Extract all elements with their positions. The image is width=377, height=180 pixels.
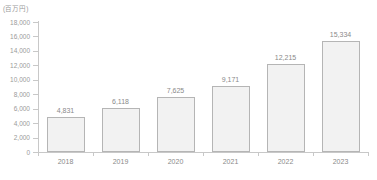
bar-value-label: 15,334 (322, 31, 360, 39)
bar (212, 86, 250, 152)
bar-group: 7,625 (157, 22, 195, 152)
bar-value-label: 6,118 (102, 98, 140, 106)
x-axis-tick (38, 152, 39, 156)
x-axis-label: 2021 (203, 158, 258, 166)
bar-chart: (百万円) 02,0004,0006,0008,00010,00012,0001… (0, 0, 377, 180)
plot-area: 4,8316,1187,6259,17112,21515,334 (38, 22, 368, 152)
y-axis-tick-label: 2,000 (14, 134, 30, 141)
bar-value-label: 7,625 (157, 87, 195, 95)
y-axis-tick-label: 14,000 (10, 47, 30, 54)
x-axis-label: 2019 (93, 158, 148, 166)
y-axis-tick-label: 12,000 (10, 62, 30, 69)
x-axis-label: 2023 (313, 158, 368, 166)
bar-value-label: 12,215 (267, 54, 305, 62)
x-axis-tick (368, 152, 369, 156)
y-axis-tick-label: 16,000 (10, 33, 30, 40)
bar-value-label: 9,171 (212, 76, 250, 84)
x-axis-label: 2022 (258, 158, 313, 166)
x-axis-tick (313, 152, 314, 156)
y-axis-tick-label: 0 (26, 149, 30, 156)
x-axis-label: 2020 (148, 158, 203, 166)
y-axis-tick-label: 18,000 (10, 19, 30, 26)
bar (102, 108, 140, 152)
bar (322, 41, 360, 152)
y-axis-tick-label: 8,000 (14, 91, 30, 98)
y-axis-tick-label: 6,000 (14, 105, 30, 112)
y-axis-tick-label: 4,000 (14, 120, 30, 127)
axis-unit-label: (百万円) (3, 4, 28, 13)
bar-group: 4,831 (47, 22, 85, 152)
bar-group: 9,171 (212, 22, 250, 152)
bar (267, 64, 305, 152)
bar-value-label: 4,831 (47, 107, 85, 115)
x-axis-tick (203, 152, 204, 156)
x-axis-tick (258, 152, 259, 156)
x-axis-tick (93, 152, 94, 156)
y-axis-tick-label: 10,000 (10, 76, 30, 83)
x-axis-tick (148, 152, 149, 156)
bar (157, 97, 195, 152)
bar-group: 6,118 (102, 22, 140, 152)
x-axis-label: 2018 (38, 158, 93, 166)
bar-group: 12,215 (267, 22, 305, 152)
bar-group: 15,334 (322, 22, 360, 152)
bar (47, 117, 85, 152)
